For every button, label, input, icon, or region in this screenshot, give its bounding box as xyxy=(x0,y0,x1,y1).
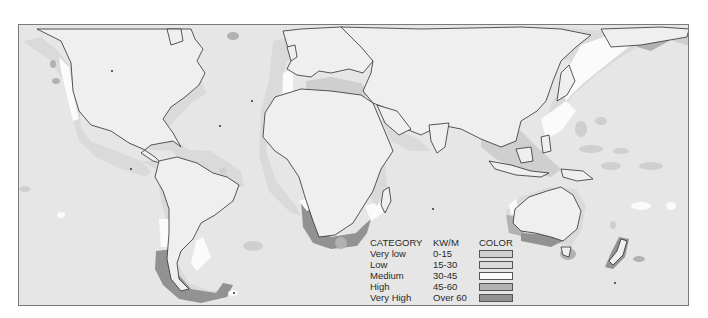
legend-swatch-medium xyxy=(479,272,513,280)
legend-category: Low xyxy=(370,259,433,270)
new-guinea xyxy=(561,169,593,181)
legend-range: 30-45 xyxy=(433,270,479,281)
north-america xyxy=(37,29,205,163)
legend: CATEGORY KW/M COLOR Very low 0-15 Low 15… xyxy=(370,237,513,303)
legend-swatch-very-high xyxy=(479,294,513,302)
legend-category: Very low xyxy=(370,248,433,259)
legend-range: 45-60 xyxy=(433,281,479,292)
legend-row-very-high: Very High Over 60 xyxy=(370,292,513,303)
legend-header-unit: KW/M xyxy=(433,237,479,248)
world-map xyxy=(18,24,689,306)
legend-swatch-very-low xyxy=(479,250,513,258)
legend-row-low: Low 15-30 xyxy=(370,259,513,270)
legend-header-color: COLOR xyxy=(479,237,513,248)
legend-swatch-low xyxy=(479,261,513,269)
legend-category: High xyxy=(370,281,433,292)
legend-header-category: CATEGORY xyxy=(370,237,433,248)
legend-range: Over 60 xyxy=(433,292,479,303)
philippines xyxy=(541,135,551,153)
legend-category: Medium xyxy=(370,270,433,281)
legend-row-medium: Medium 30-45 xyxy=(370,270,513,281)
legend-swatch-high xyxy=(479,283,513,291)
map-canvas xyxy=(19,25,689,306)
legend-row-very-low: Very low 0-15 xyxy=(370,248,513,259)
legend-range: 0-15 xyxy=(433,248,479,259)
legend-header: CATEGORY KW/M COLOR xyxy=(370,237,513,248)
legend-row-high: High 45-60 xyxy=(370,281,513,292)
india xyxy=(429,123,449,153)
legend-category: Very High xyxy=(370,292,433,303)
legend-range: 15-30 xyxy=(433,259,479,270)
